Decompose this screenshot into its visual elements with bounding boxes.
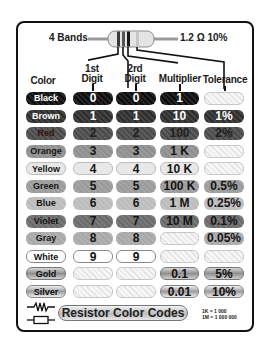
digit2-yellow: 4 xyxy=(116,162,156,175)
digit2-silver xyxy=(116,285,156,298)
unit-note: 1K = 1 000 1M = 1 000 000 xyxy=(202,308,237,320)
multiplier-violet: 10 M xyxy=(160,215,199,228)
digit1-gray: 8 xyxy=(73,232,113,245)
digit1-silver xyxy=(73,285,113,298)
digit1-line2: Digit xyxy=(72,74,112,84)
multiplier-red: 100 xyxy=(160,127,199,140)
tolerance-gray: 0.05% xyxy=(204,232,244,245)
color-label-green: Green xyxy=(26,180,66,193)
digit1-yellow: 4 xyxy=(73,162,113,175)
tolerance-violet: 0.1% xyxy=(204,215,244,228)
band-2 xyxy=(122,32,125,47)
digit1-violet: 7 xyxy=(73,215,113,228)
color-label-gold: Gold xyxy=(26,267,66,280)
multiplier-black: 1 xyxy=(160,92,199,105)
tolerance-gold: 5% xyxy=(204,267,244,280)
tolerance-blue: 0.25% xyxy=(204,197,244,210)
color-label-blue: Blue xyxy=(26,197,66,210)
digit1-blue: 6 xyxy=(73,197,113,210)
tolerance-white xyxy=(204,250,244,263)
color-label-brown: Brown xyxy=(26,110,66,123)
multiplier-orange: 1 K xyxy=(160,145,199,158)
resistor-symbol-icons xyxy=(27,302,57,326)
zigzag-resistor-icon xyxy=(27,303,55,311)
column-heading-digit2: 2rd Digit xyxy=(115,64,155,84)
color-label-gray: Gray xyxy=(26,232,66,245)
digit1-black: 0 xyxy=(73,92,113,105)
note-m: 1M = 1 000 000 xyxy=(202,314,237,320)
digit1-gold xyxy=(73,267,113,280)
tick xyxy=(92,84,94,91)
multiplier-green: 100 K xyxy=(160,180,199,193)
digit2-orange: 3 xyxy=(116,145,156,158)
digit1-red: 2 xyxy=(73,127,113,140)
digit2-line2: Digit xyxy=(115,74,155,84)
digit2-black: 0 xyxy=(116,92,156,105)
digit2-blue: 6 xyxy=(116,197,156,210)
tolerance-orange xyxy=(204,145,244,158)
multiplier-yellow: 10 K xyxy=(160,162,199,175)
digit2-brown: 1 xyxy=(116,110,156,123)
column-heading-tolerance: Tolerance xyxy=(201,75,249,85)
tolerance-brown: 1% xyxy=(204,110,244,123)
color-label-red: Red xyxy=(26,127,66,140)
color-label-white: White xyxy=(26,250,66,263)
multiplier-silver: 0.01 xyxy=(160,285,199,298)
column-heading-digit1: 1st Digit xyxy=(72,64,112,84)
example-value: 1.2 Ω 10% xyxy=(180,32,228,43)
tolerance-red: 2% xyxy=(204,127,244,140)
digit2-red: 2 xyxy=(116,127,156,140)
digit2-violet: 7 xyxy=(116,215,156,228)
box-resistor-icon xyxy=(34,317,48,324)
tick xyxy=(179,84,181,91)
color-label-yellow: Yellow xyxy=(26,162,66,175)
digit1-orange: 3 xyxy=(73,145,113,158)
bands-label: 4 Bands xyxy=(49,32,88,43)
multiplier-brown: 10 xyxy=(160,110,199,123)
band-3 xyxy=(127,32,130,47)
column-heading-color: Color xyxy=(20,76,66,86)
tick xyxy=(135,84,137,91)
digit1-white: 9 xyxy=(73,250,113,263)
tolerance-yellow xyxy=(204,162,244,175)
tolerance-silver: 10% xyxy=(204,285,244,298)
color-label-orange: Orange xyxy=(26,145,66,158)
tick xyxy=(224,86,226,91)
color-label-violet: Violet xyxy=(26,215,66,228)
digit1-brown: 1 xyxy=(73,110,113,123)
color-label-silver: Silver xyxy=(26,285,66,298)
multiplier-white xyxy=(160,250,199,263)
digit2-green: 5 xyxy=(116,180,156,193)
tolerance-green: 0.5% xyxy=(204,180,244,193)
multiplier-blue: 1 M xyxy=(160,197,199,210)
color-label-black: Black xyxy=(26,92,66,105)
column-heading-multiplier: Multiplier xyxy=(157,74,203,84)
digit1-green: 5 xyxy=(73,180,113,193)
multiplier-gold: 0.1 xyxy=(160,267,199,280)
band-1 xyxy=(117,32,120,47)
tolerance-black xyxy=(204,92,244,105)
resistor-color-codes-title: Resistor Color Codes xyxy=(58,305,188,321)
digit2-gray: 8 xyxy=(116,232,156,245)
multiplier-gray xyxy=(160,232,199,245)
digit2-gold xyxy=(116,267,156,280)
digit2-white: 9 xyxy=(116,250,156,263)
